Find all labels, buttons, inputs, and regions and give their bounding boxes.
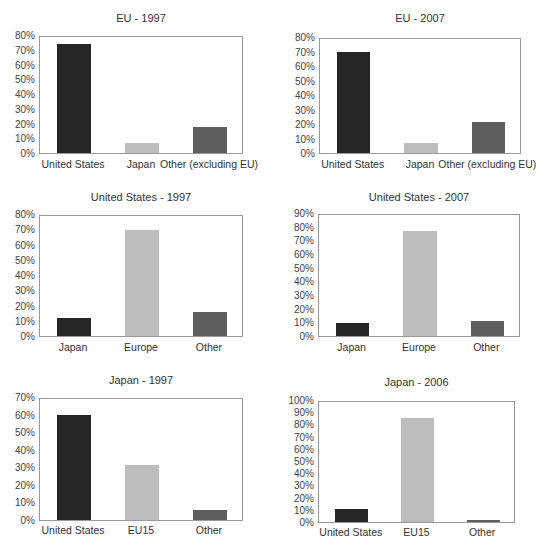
y-tick-label: 60%: [1, 61, 35, 71]
y-tick-label: 60%: [280, 250, 314, 260]
y-tick-label: 100%: [280, 396, 314, 406]
y-tick-label: 20%: [1, 481, 35, 491]
y-tick-label: 90%: [280, 209, 314, 219]
plot-area: [319, 38, 521, 154]
y-tick-label: 10%: [1, 317, 35, 327]
bar-japan: [336, 323, 370, 336]
y-tick-label: 0%: [1, 149, 35, 159]
y-tick-label: 20%: [280, 305, 314, 315]
y-tick-label: 80%: [1, 31, 35, 41]
y-tick-label: 20%: [1, 120, 35, 130]
x-category-label: Other: [179, 341, 239, 353]
y-tick-label: 20%: [280, 494, 314, 504]
bar-eu15: [125, 465, 159, 520]
y-tick-label: 30%: [1, 286, 35, 296]
bar-united-states: [57, 44, 91, 153]
x-category-label: Other (excluding EU): [432, 158, 542, 170]
y-tick-label: 70%: [1, 393, 35, 403]
y-tick-label: 10%: [280, 318, 314, 328]
x-category-label: Other: [456, 341, 516, 353]
y-tick-label: 50%: [280, 457, 314, 467]
plot-area: [39, 215, 243, 337]
y-tick-label: 20%: [1, 302, 35, 312]
y-tick-label: 70%: [280, 236, 314, 246]
plot-area: [318, 214, 520, 337]
y-tick-label: 80%: [280, 223, 314, 233]
y-tick-label: 30%: [1, 463, 35, 473]
bar-other: [193, 312, 227, 336]
y-tick-label: 0%: [1, 332, 35, 342]
chart-us-2007: United States - 20070%10%20%30%40%50%60%…: [273, 185, 546, 365]
x-category-label: Other: [174, 524, 244, 536]
y-tick-label: 90%: [280, 408, 314, 418]
plot-area: [39, 398, 243, 521]
plot-area: [318, 401, 515, 523]
bar-eu15: [401, 418, 434, 522]
y-tick-label: 40%: [1, 90, 35, 100]
y-tick-label: 10%: [280, 506, 314, 516]
y-tick-label: 20%: [281, 120, 315, 130]
x-category-label: United States: [316, 526, 386, 538]
y-tick-label: 40%: [280, 277, 314, 287]
x-category-label: United States: [318, 158, 388, 170]
y-tick-label: 40%: [1, 446, 35, 456]
chart-title: EU - 2007: [319, 12, 521, 24]
x-category-label: United States: [38, 158, 108, 170]
chart-title: United States - 1997: [39, 191, 243, 203]
y-tick-label: 60%: [1, 411, 35, 421]
y-tick-label: 70%: [281, 48, 315, 58]
y-tick-label: 10%: [1, 498, 35, 508]
y-tick-label: 70%: [280, 433, 314, 443]
y-tick-label: 30%: [1, 105, 35, 115]
bar-united-states: [337, 52, 371, 153]
bar-japan: [404, 143, 438, 153]
x-category-label: Japan: [322, 341, 382, 353]
y-tick-label: 80%: [1, 210, 35, 220]
chart-title: United States - 2007: [318, 191, 520, 203]
bar-other-excluding-eu: [472, 122, 506, 153]
chart-us-1997: United States - 19970%10%20%30%40%50%60%…: [0, 185, 273, 365]
y-tick-label: 70%: [1, 225, 35, 235]
y-tick-label: 0%: [280, 518, 314, 528]
y-tick-label: 60%: [1, 241, 35, 251]
y-tick-label: 30%: [281, 106, 315, 116]
x-category-label: Europe: [111, 341, 171, 353]
chart-japan-2006: Japan - 20060%10%20%30%40%50%60%70%80%90…: [273, 368, 546, 548]
y-tick-label: 0%: [1, 516, 35, 526]
y-tick-label: 30%: [280, 481, 314, 491]
y-tick-label: 60%: [280, 445, 314, 455]
y-tick-label: 80%: [281, 33, 315, 43]
y-tick-label: 40%: [1, 271, 35, 281]
chart-eu-2007: EU - 20070%10%20%30%40%50%60%70%80%Unite…: [273, 0, 546, 180]
x-category-label: EU15: [382, 526, 452, 538]
bar-japan: [57, 318, 91, 336]
y-tick-label: 50%: [281, 77, 315, 87]
bar-japan: [125, 143, 159, 153]
bar-other: [467, 520, 500, 522]
y-tick-label: 50%: [1, 428, 35, 438]
chart-title: Japan - 1997: [39, 374, 243, 386]
y-tick-label: 60%: [281, 62, 315, 72]
bar-other: [193, 510, 227, 520]
bar-europe: [403, 231, 437, 336]
x-category-label: Japan: [43, 341, 103, 353]
x-category-label: Other: [447, 526, 517, 538]
y-tick-label: 30%: [280, 291, 314, 301]
y-tick-label: 50%: [1, 75, 35, 85]
bar-other-excluding-eu: [193, 127, 227, 153]
y-tick-label: 10%: [281, 135, 315, 145]
bar-united-states: [57, 415, 91, 520]
plot-area: [39, 36, 243, 154]
y-tick-label: 70%: [1, 46, 35, 56]
chart-title: EU - 1997: [39, 12, 243, 24]
y-tick-label: 0%: [281, 149, 315, 159]
y-tick-label: 80%: [280, 420, 314, 430]
y-tick-label: 50%: [280, 264, 314, 274]
x-category-label: Other (excluding EU): [154, 158, 264, 170]
x-category-label: United States: [38, 524, 108, 536]
y-tick-label: 40%: [280, 469, 314, 479]
y-tick-label: 40%: [281, 91, 315, 101]
x-category-label: EU15: [106, 524, 176, 536]
y-tick-label: 10%: [1, 134, 35, 144]
chart-title: Japan - 2006: [318, 376, 515, 388]
